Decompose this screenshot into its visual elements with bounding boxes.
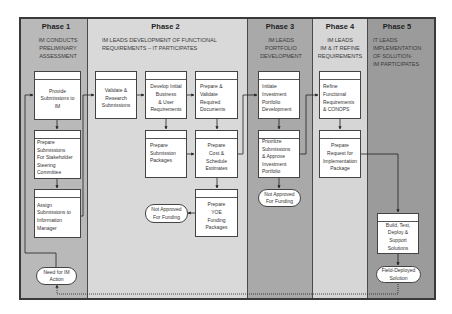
process-box-prepare-validate-documents: Prepare & Validate Required Documents xyxy=(195,71,238,119)
lane-divider xyxy=(247,18,248,299)
box-header xyxy=(320,72,360,80)
box-header xyxy=(378,214,418,222)
box-header xyxy=(35,131,80,139)
phase-5-subtitle: IT LEADS IMPLEMENTATION OF SOLUTION- IM … xyxy=(373,36,421,68)
phase-3-subtitle: IM LEADS PORTFOLIO DEVELOPMENT xyxy=(248,36,314,60)
box-header xyxy=(96,72,136,80)
lane-divider xyxy=(367,18,368,299)
phase-1-title: Phase 1 xyxy=(19,22,93,31)
box-header xyxy=(320,131,360,139)
terminal-not-approved-phase3: Not Approved For Funding xyxy=(258,189,301,207)
box-label: Provide Submissions to IM xyxy=(37,80,78,118)
process-box-build-test-deploy: Build, Test, Deploy & Support Solutions xyxy=(377,213,419,254)
im-process-flow-diagram: Phase 1 IM CONDUCTS PRELIMINARY ASSESSME… xyxy=(0,0,452,314)
lane-divider xyxy=(87,18,88,299)
box-label: Initiate Investment Portfolio Developmen… xyxy=(262,80,297,117)
box-label: Validate & Research Submissions xyxy=(98,80,134,117)
phase-4-subtitle: IM LEADS IM & IT REFINE REQUIREMENTS xyxy=(311,36,369,60)
process-box-refine-requirements: Refine Functional Requirements & CONOPS xyxy=(319,71,361,119)
box-header xyxy=(146,131,186,139)
box-label: Prepare Request for Implementation Packa… xyxy=(320,139,360,176)
box-label: Build, Test, Deploy & Support Solutions xyxy=(380,222,416,252)
box-label: Prepare YOE Funding Packages xyxy=(198,198,235,235)
process-box-prepare-request: Prepare Request for Implementation Packa… xyxy=(319,130,361,178)
process-box-initiate-portfolio: Initiate Investment Portfolio Developmen… xyxy=(258,71,300,119)
phase-1-subtitle: IM CONDUCTS PRELIMINARY ASSESSMENT xyxy=(19,36,97,60)
process-box-prepare-cost-estimates: Prepare Cost & Schedule Estimates xyxy=(195,130,238,178)
phase-4-title: Phase 4 xyxy=(312,22,368,31)
terminal-field-deployed: Field-Deployed Solution xyxy=(376,266,421,283)
box-header xyxy=(196,131,237,139)
process-box-validate-research: Validate & Research Submissions xyxy=(95,71,137,119)
process-box-prioritize-approve: Prioritize Submissions & Approve Investm… xyxy=(258,130,300,178)
phase-2-title: Phase 2 xyxy=(88,22,243,31)
phase-2-subtitle: IM LEADS DEVELOPMENT OF FUNCTIONAL REQUI… xyxy=(102,36,217,52)
process-box-provide-submissions: Provide Submissions to IM xyxy=(34,71,81,120)
box-label: Prepare Cost & Schedule Estimates xyxy=(198,139,235,176)
process-box-develop-requirements: Develop Initial Business & User Requirem… xyxy=(145,71,187,119)
process-box-prepare-yoe-packages: Prepare YOE Funding Packages xyxy=(195,189,238,237)
box-header xyxy=(35,72,80,80)
box-label: Develop Initial Business & User Requirem… xyxy=(146,80,186,117)
box-label: Prepare & Validate Required Documents xyxy=(200,80,235,117)
phase-5-title: Phase 5 xyxy=(368,22,426,31)
terminal-need-for-im-action: Need for IM Action xyxy=(36,267,77,285)
box-label: Prepare Submission Packages xyxy=(150,139,184,176)
process-box-assign-submissions: Assign Submissions to Information Manage… xyxy=(34,189,81,238)
box-header xyxy=(259,72,299,80)
box-header xyxy=(196,190,237,198)
phase-3-title: Phase 3 xyxy=(248,22,312,31)
box-header xyxy=(196,72,237,80)
box-header xyxy=(146,72,186,80)
lane-divider xyxy=(312,18,313,299)
box-label: Prepare Submissions For Stakeholder Stee… xyxy=(37,139,78,177)
process-box-prepare-submission-packages: Prepare Submission Packages xyxy=(145,130,187,178)
process-box-prepare-stakeholder: Prepare Submissions For Stakeholder Stee… xyxy=(34,130,81,179)
box-header xyxy=(35,190,80,198)
box-label: Assign Submissions to Information Manage… xyxy=(37,198,78,236)
box-label: Prioritize Submissions & Approve Investm… xyxy=(262,138,297,176)
terminal-not-approved-phase2: Not Approved For Funding xyxy=(145,204,188,223)
box-label: Refine Functional Requirements & CONOPS xyxy=(323,80,358,117)
